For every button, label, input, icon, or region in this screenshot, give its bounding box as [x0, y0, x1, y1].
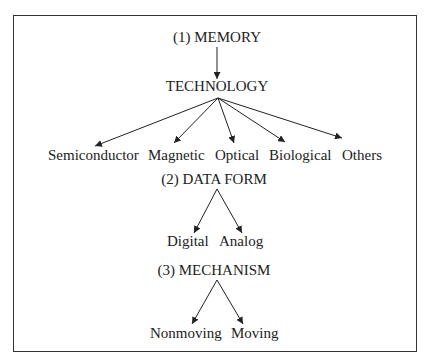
node-nonmoving: Nonmoving	[150, 326, 222, 341]
arrow-biological	[218, 98, 285, 142]
arrow-digital	[194, 189, 217, 233]
node-technology: TECHNOLOGY	[166, 79, 269, 94]
node-optical: Optical	[215, 148, 259, 163]
arrow-magnetic	[174, 98, 218, 143]
arrow-nonmoving	[192, 280, 217, 324]
node-memory: (1) MEMORY	[173, 30, 261, 45]
node-analog: Analog	[219, 234, 263, 249]
node-magnetic: Magnetic	[148, 148, 205, 163]
arrow-others	[218, 98, 342, 138]
node-mechanism: (3) MECHANISM	[158, 263, 271, 278]
arrow-semiconductor	[95, 98, 218, 146]
node-others: Others	[342, 148, 382, 163]
arrow-optical	[218, 98, 234, 143]
arrow-analog	[217, 189, 242, 233]
node-digital: Digital	[167, 234, 209, 249]
node-moving: Moving	[231, 326, 279, 341]
node-biological: Biological	[269, 148, 332, 163]
arrow-moving	[217, 280, 243, 324]
node-data-form: (2) DATA FORM	[161, 172, 266, 187]
node-semiconductor: Semiconductor	[48, 148, 139, 163]
